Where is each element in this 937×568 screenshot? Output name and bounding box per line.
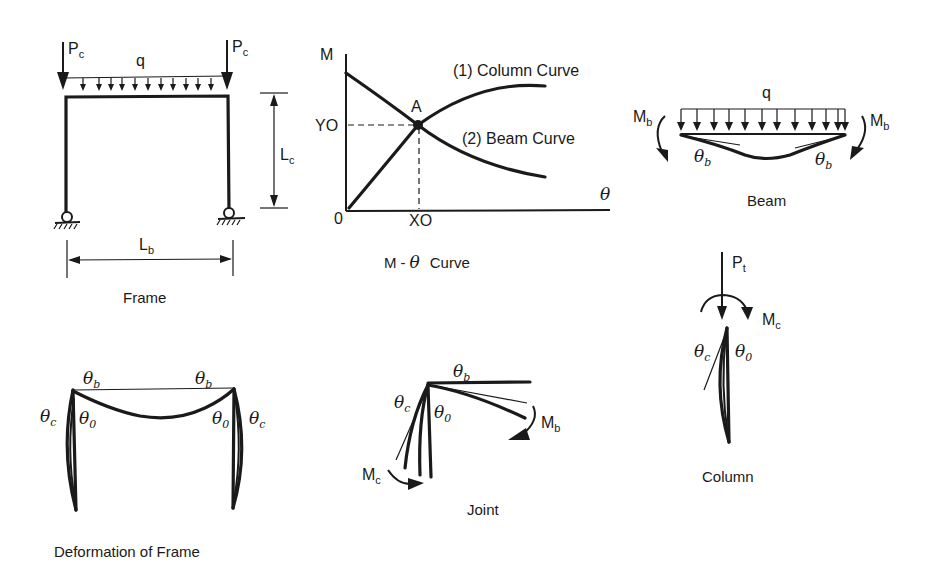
x-axis-label: θ	[600, 184, 610, 204]
moment-left-label: Mb	[633, 108, 652, 128]
axial-load-label: Pt	[732, 254, 746, 274]
column-theta-c-label: θc	[694, 341, 710, 364]
arrowhead-icon	[221, 72, 233, 90]
load-label-right: Pc	[232, 38, 249, 58]
frame-members	[66, 96, 229, 216]
arrowhead-icon	[677, 122, 849, 131]
deform-theta-c-right: θc	[249, 408, 265, 431]
right-column-original	[233, 389, 234, 508]
deform-theta-0-right: θ0	[212, 408, 229, 431]
beam-length-label: Lb	[139, 236, 154, 256]
column-moment-label: Mc	[762, 311, 781, 331]
m-theta-chart: M θ 0 YO XO A (1) Column Curve (2) Beam …	[315, 46, 610, 272]
frame-figure: Pc Pc q Lc	[54, 38, 295, 306]
beam-curve-label: (2) Beam Curve	[462, 130, 575, 147]
deformation-caption: Deformation of Frame	[54, 543, 200, 560]
arrowhead-icon	[741, 307, 753, 320]
y-tick-label: YO	[315, 117, 338, 134]
joint-caption: Joint	[467, 501, 500, 518]
column-curve-label: (1) Column Curve	[453, 62, 579, 79]
moment-arrow-left	[658, 116, 665, 152]
deform-theta-0-left: θ0	[79, 408, 96, 431]
load-label-left: Pc	[68, 40, 85, 60]
x-tick-label: XO	[409, 212, 432, 229]
joint-beam-original	[428, 382, 530, 383]
moment-arrow-right	[858, 116, 865, 148]
beam-caption: Beam	[747, 192, 786, 209]
tangent-line-right	[795, 136, 843, 148]
joint-column-original	[428, 385, 431, 477]
distributed-load-line	[63, 76, 227, 78]
arrowhead-icon	[717, 306, 727, 320]
column-caption: Column	[702, 468, 754, 485]
distributed-load-label: q	[136, 52, 145, 69]
joint-theta-b: θb	[453, 361, 470, 384]
joint-figure: θb θc θ0 Mb Mc Joint	[362, 361, 560, 518]
joint-moment-c-label: Mc	[362, 466, 381, 486]
deform-theta-b-right: θb	[195, 368, 212, 391]
y-axis-label: M	[320, 46, 333, 63]
arrowhead-icon	[57, 72, 69, 90]
arrowhead-icon	[656, 148, 668, 162]
m-theta-caption: M-θCurve	[384, 252, 470, 272]
deformation-figure: θb θb θc θ0 θ0 θc Deformation of Frame	[40, 368, 265, 560]
joint-moment-b-label: Mb	[541, 414, 560, 434]
joint-theta-c: θc	[394, 392, 410, 415]
intersection-point	[413, 120, 423, 130]
distributed-load-arrows	[80, 78, 214, 91]
intersection-label: A	[411, 98, 422, 115]
deform-theta-c-left: θc	[40, 406, 56, 429]
arrowhead-icon	[850, 146, 864, 160]
frame-caption: Frame	[123, 289, 166, 306]
beam-figure: q Mb Mb θb θb Beam	[633, 84, 889, 209]
column-length-label: Lc	[280, 146, 295, 166]
x-axis	[346, 210, 610, 211]
deformed-beam	[73, 389, 234, 418]
joint-theta-0: θ0	[434, 402, 451, 425]
frame-analysis-diagram: Pc Pc q Lc	[0, 0, 937, 568]
rotation-right-label: θb	[815, 149, 832, 172]
column-theta-0-label: θ0	[735, 341, 752, 364]
column-figure: Pt Mc θc θ0 Column	[694, 252, 781, 485]
rotation-left-label: θb	[694, 146, 711, 169]
beam-load-label: q	[762, 84, 771, 101]
arrowhead-icon	[408, 478, 424, 490]
beam-curve	[346, 73, 545, 177]
deform-theta-b-left: θb	[83, 368, 100, 391]
pin-support-left	[54, 212, 80, 229]
origin-label: 0	[334, 210, 343, 227]
joint-beam-tangent	[430, 385, 527, 403]
moment-right-label: Mb	[870, 112, 889, 132]
pin-support-right	[217, 208, 245, 225]
